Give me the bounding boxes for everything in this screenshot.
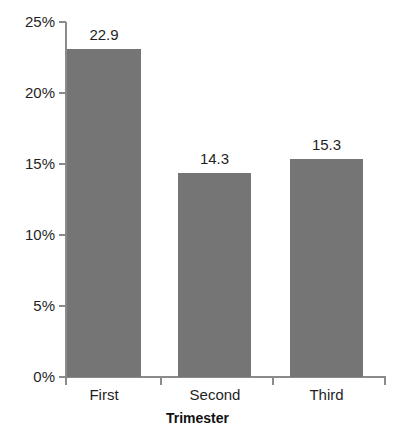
- x-axis-title: Trimester: [0, 410, 395, 426]
- bar-second: [178, 173, 251, 377]
- x-tick-first-second: [160, 378, 162, 385]
- bar-value-first: 22.9: [67, 27, 141, 42]
- x-label-third: Third: [290, 386, 363, 403]
- y-tick-15: [59, 163, 66, 165]
- y-tick-25: [59, 21, 66, 23]
- bar-chart: 25% 20% 15% 10% 5% 0% 22.9 14.3 15.3 Fir…: [0, 0, 395, 434]
- x-label-second: Second: [175, 386, 255, 403]
- x-tick-start: [65, 378, 67, 385]
- x-label-first: First: [67, 386, 141, 403]
- y-tick-5: [59, 305, 66, 307]
- y-tick-label-20: 20%: [0, 85, 55, 100]
- x-tick-end: [384, 378, 386, 385]
- y-tick-label-10: 10%: [0, 227, 55, 242]
- y-tick-label-25: 25%: [0, 14, 55, 29]
- y-tick-10: [59, 234, 66, 236]
- y-tick-label-5: 5%: [0, 298, 55, 313]
- bar-value-second: 14.3: [178, 151, 251, 166]
- bar-first: [67, 49, 141, 377]
- x-tick-second-third: [272, 378, 274, 385]
- y-tick-label-0: 0%: [0, 369, 55, 384]
- y-tick-20: [59, 92, 66, 94]
- bar-third: [290, 159, 363, 377]
- y-tick-label-15: 15%: [0, 156, 55, 171]
- bar-value-third: 15.3: [290, 137, 363, 152]
